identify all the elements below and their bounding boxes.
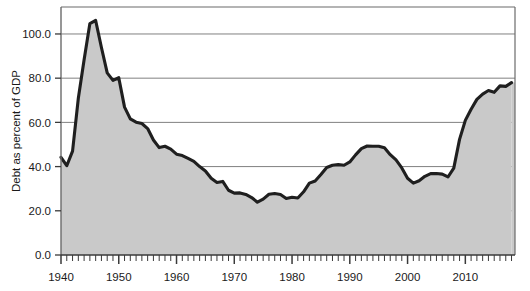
x-tick-label: 1960	[164, 271, 190, 283]
y-tick-label: 60.0	[29, 117, 51, 129]
x-tick-label: 2000	[395, 271, 421, 283]
x-tick-label: 2010	[453, 271, 479, 283]
y-tick-label: 80.0	[29, 72, 51, 84]
y-tick-label: 100.0	[22, 28, 51, 40]
x-axis: 19401950196019701980199020002010	[48, 255, 511, 283]
y-tick-label: 0.0	[35, 249, 51, 261]
x-tick-label: 1940	[48, 271, 74, 283]
x-tick-label: 1980	[279, 271, 305, 283]
y-tick-label: 40.0	[29, 161, 51, 173]
y-axis: 0.020.040.060.080.0100.0	[22, 28, 61, 261]
y-tick-label: 20.0	[29, 205, 51, 217]
x-tick-label: 1950	[106, 271, 132, 283]
chart-page: 0.020.040.060.080.0100.0 194019501960197…	[0, 0, 530, 291]
x-tick-label: 1970	[221, 271, 247, 283]
y-axis-title: Debt as percent of GDP	[10, 70, 22, 192]
debt-gdp-area-chart: 0.020.040.060.080.0100.0 194019501960197…	[0, 0, 530, 291]
x-tick-label: 1990	[337, 271, 363, 283]
